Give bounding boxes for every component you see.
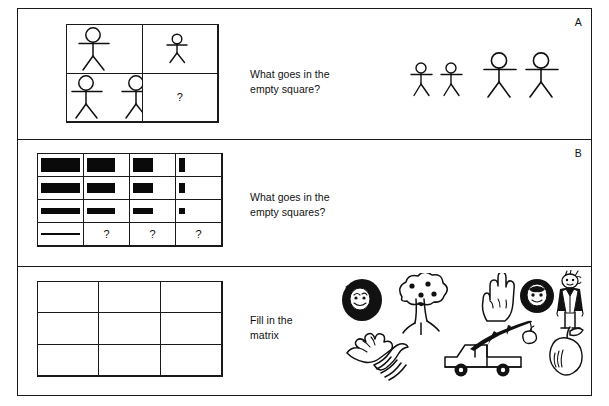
grid-b-cell-r1c1[interactable]	[38, 154, 84, 177]
question-mark: ?	[103, 229, 109, 240]
question-mark: ?	[195, 229, 201, 240]
black-bar	[179, 158, 185, 172]
panel-letter-a: A	[575, 16, 582, 28]
grid-b-cell-r3c2[interactable]	[84, 200, 130, 223]
grid-b-cell-r3c3[interactable]	[130, 200, 176, 223]
stick-figure-large	[481, 51, 523, 99]
grid-b-cell-r4c4[interactable]: ?	[176, 223, 222, 246]
black-bar	[87, 208, 115, 214]
panel-letter-b: B	[575, 147, 582, 159]
stick-figure-large	[117, 74, 143, 120]
apple-tree-illustration[interactable]	[388, 273, 452, 335]
grid-b-cell-r1c2[interactable]	[84, 154, 130, 177]
grid-c-cell-r1c1[interactable]	[38, 282, 99, 313]
panel-b-prompt: What goes in the empty squares?	[250, 190, 380, 220]
black-bar	[179, 208, 185, 214]
grid-a-cell-r2c2[interactable]: ?	[143, 74, 219, 123]
grid-c-cell-r1c3[interactable]	[161, 282, 222, 313]
stick-figure-large	[523, 51, 565, 99]
grid-c-cell-r3c2[interactable]	[99, 345, 160, 376]
panel-a: A	[18, 9, 591, 140]
grid-b-cell-r1c3[interactable]	[130, 154, 176, 177]
panel-b: B ??? What goes in the empty squares?	[18, 140, 591, 267]
grid-b-cell-r3c1[interactable]	[38, 200, 84, 223]
panel-a-prompt: What goes in the empty square?	[250, 67, 370, 97]
question-mark: ?	[149, 229, 155, 240]
grid-c-cell-r2c3[interactable]	[161, 313, 222, 344]
panel-c: C Fill in the matrix	[18, 267, 591, 394]
grid-a-cell-r1c2[interactable]	[143, 25, 219, 74]
grid-b-cell-r2c3[interactable]	[130, 177, 176, 200]
matrix-grid-c	[37, 281, 223, 377]
matrix-grid-a: ?	[66, 24, 219, 123]
black-bar	[133, 183, 153, 193]
grid-a-cell-r1c1[interactable]	[67, 25, 143, 74]
black-bar	[41, 158, 80, 172]
apple-illustration[interactable]	[545, 325, 591, 377]
black-bar	[179, 183, 185, 193]
grid-c-cell-r3c1[interactable]	[38, 345, 99, 376]
grid-b-cell-r4c3[interactable]: ?	[130, 223, 176, 246]
figure-sheet: A	[17, 8, 592, 396]
stick-figure-small	[408, 61, 438, 97]
black-bar	[41, 208, 80, 214]
black-bar	[41, 233, 80, 235]
black-bar	[133, 158, 153, 172]
grid-b-cell-r4c1[interactable]	[38, 223, 84, 246]
grid-b-cell-r2c4[interactable]	[176, 177, 222, 200]
option-two-large-figures[interactable]	[481, 51, 565, 99]
black-bar	[133, 208, 153, 214]
grid-b-cell-r2c1[interactable]	[38, 177, 84, 200]
question-mark: ?	[177, 92, 183, 103]
grid-c-cell-r2c2[interactable]	[99, 313, 160, 344]
grid-c-cell-r2c1[interactable]	[38, 313, 99, 344]
grid-b-cell-r4c2[interactable]: ?	[84, 223, 130, 246]
grid-b-cell-r3c4[interactable]	[176, 200, 222, 223]
grid-a-cell-r2c1[interactable]	[67, 74, 143, 123]
matrix-grid-b: ???	[37, 153, 223, 247]
black-bar	[41, 183, 80, 193]
stick-figure-large	[67, 74, 117, 120]
black-bar	[87, 183, 115, 193]
pickup-truck-illustration[interactable]	[441, 335, 525, 379]
grid-c-cell-r3c3[interactable]	[161, 345, 222, 376]
grid-b-cell-r1c4[interactable]	[176, 154, 222, 177]
grid-c-cell-r1c2[interactable]	[99, 282, 160, 313]
stick-figure-small	[438, 61, 468, 97]
grid-b-cell-r2c2[interactable]	[84, 177, 130, 200]
hand-with-striped-sleeve-illustration[interactable]	[341, 329, 415, 381]
record-disc-with-face-illustration[interactable]	[340, 277, 384, 323]
stick-figure-small	[162, 33, 198, 64]
black-bar	[87, 158, 115, 172]
stick-figure-large	[73, 26, 131, 72]
option-two-small-figures[interactable]	[408, 61, 468, 97]
